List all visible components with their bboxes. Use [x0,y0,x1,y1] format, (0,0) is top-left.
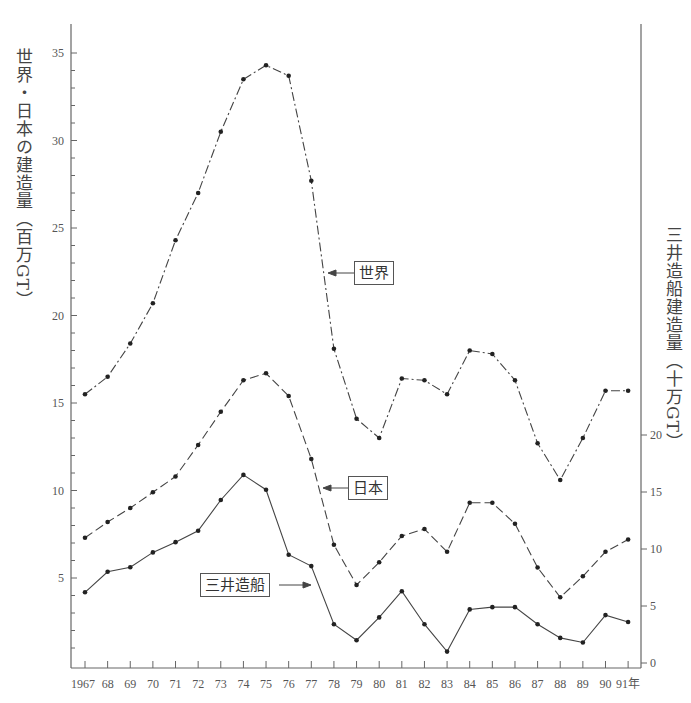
data-point [218,409,223,414]
x-tick-label: 77 [305,677,317,691]
data-point [173,238,178,243]
data-point [105,520,110,525]
data-point [558,478,563,483]
x-tick-label: 91年 [616,677,640,691]
x-tick-label: 70 [147,677,159,691]
x-tick-label: 89 [577,677,589,691]
data-point [445,392,450,397]
x-tick-label: 82 [418,677,430,691]
x-tick-label: 68 [102,677,114,691]
data-point [513,521,518,526]
data-point [83,392,88,397]
data-point [535,565,540,570]
data-point [490,500,495,505]
left-tick-label: 30 [52,134,64,148]
data-point [151,550,156,555]
data-point [535,441,540,446]
data-point [445,549,450,554]
data-point [354,583,359,588]
callout-arrows [279,270,354,588]
data-point [196,443,201,448]
data-point [264,63,269,68]
x-tick-label: 74 [237,677,249,691]
data-point [128,341,133,346]
x-tick-label: 69 [124,677,136,691]
data-point [490,605,495,610]
data-point [400,589,405,594]
data-point [603,549,608,554]
data-point [377,560,382,565]
left-tick-label: 25 [52,221,64,235]
data-point [309,457,314,462]
x-tick-label: 90 [599,677,611,691]
data-point [558,636,563,641]
data-point [445,649,450,654]
data-point [83,590,88,595]
data-point [603,613,608,618]
data-point [581,436,586,441]
left-tick-label: 35 [52,46,64,60]
data-point [151,490,156,495]
data-point [241,77,246,82]
data-point [218,129,223,134]
data-point [105,570,110,575]
data-point [354,416,359,421]
data-point [196,191,201,196]
data-point [151,301,156,306]
x-tick-label: 1967 [71,677,95,691]
right-tick-label: 15 [650,485,662,499]
data-point [286,73,291,78]
data-point [603,388,608,393]
data-point [218,498,223,503]
x-tick-label: 76 [283,677,295,691]
data-point [83,535,88,540]
arrow-head-world [328,270,336,276]
data-point [332,542,337,547]
data-point [400,534,405,539]
x-tick-label: 79 [351,677,363,691]
data-point [264,371,269,376]
x-tick-label: 75 [260,677,272,691]
left-axis-title: 世界・日本の建造量（百万GT） [14,48,31,309]
data-point [626,620,631,625]
data-point [286,394,291,399]
left-axis-ticks: 5101520253035 [52,46,77,648]
data-point [173,540,178,545]
x-axis-ticks: 1967686970717273747576777879808182838485… [71,661,640,691]
data-point [467,348,472,353]
right-tick-label: 10 [650,542,662,556]
data-point [173,474,178,479]
data-point [332,346,337,351]
x-tick-label: 87 [532,677,544,691]
x-tick-label: 85 [486,677,498,691]
data-point [128,565,133,570]
data-point [581,574,586,579]
data-point [309,178,314,183]
data-point [513,605,518,610]
right-tick-label: 20 [650,428,662,442]
right-axis-ticks: 05101520 [641,428,662,670]
x-tick-label: 86 [509,677,521,691]
right-axis-title: 三井造船建造量（十万GT） [664,226,681,451]
data-point [128,506,133,511]
data-point [264,487,269,492]
data-point [626,537,631,542]
x-tick-label: 83 [441,677,453,691]
x-tick-label: 73 [215,677,227,691]
arrow-head-mitsui [303,582,311,588]
data-point [354,638,359,643]
callout-japan: 日本 [348,476,388,500]
arrow-head-japan [323,485,331,491]
data-point [513,378,518,383]
left-tick-label: 5 [58,571,64,585]
x-tick-label: 80 [373,677,385,691]
data-point [581,640,586,645]
series-line [85,475,628,652]
x-tick-label: 72 [192,677,204,691]
right-tick-label: 0 [650,656,656,670]
right-tick-label: 5 [650,599,656,613]
left-tick-label: 20 [52,309,64,323]
data-point [196,528,201,533]
data-point [422,378,427,383]
data-point [309,564,314,569]
